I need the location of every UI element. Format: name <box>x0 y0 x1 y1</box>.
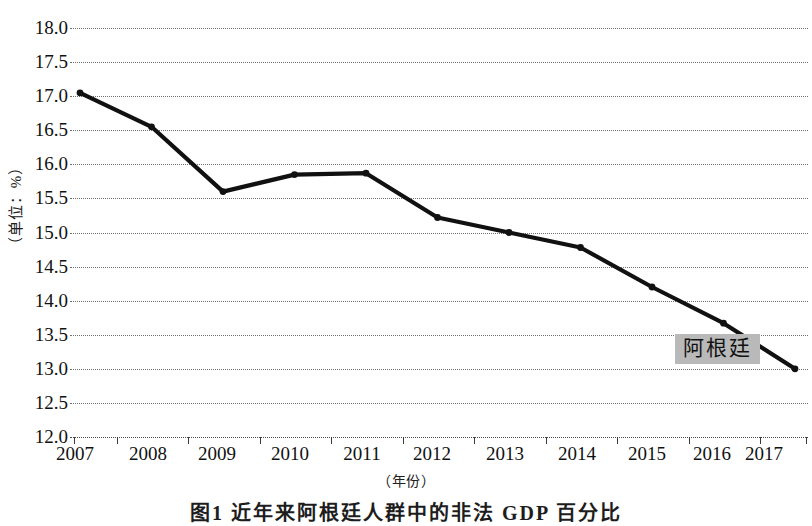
y-axis-tick-label: 13.5 <box>12 325 68 344</box>
y-axis-tick-labels: 18.017.517.016.516.015.515.014.514.013.5… <box>8 0 68 460</box>
y-axis-tick-label: 16.0 <box>12 154 68 173</box>
x-axis-tick-label: 2013 <box>481 444 529 463</box>
gridline <box>70 369 808 370</box>
gridline <box>70 62 808 63</box>
x-axis-tick-label: 2009 <box>193 444 241 463</box>
x-axis-tick <box>260 437 261 444</box>
gridline <box>70 233 808 234</box>
x-axis-unit-label: （年份） <box>0 470 812 490</box>
x-axis-tick-label: 2012 <box>408 444 456 463</box>
y-axis-tick-label: 14.0 <box>12 291 68 310</box>
x-axis-tick <box>806 437 807 444</box>
y-axis-tick-label: 17.5 <box>12 52 68 71</box>
x-axis-tick-label: 2011 <box>338 444 386 463</box>
x-axis-tick-label: 2017 <box>740 444 788 463</box>
y-axis-tick-label: 18.0 <box>12 18 68 37</box>
x-axis-tick-label: 2014 <box>553 444 601 463</box>
x-axis-tick <box>474 437 475 444</box>
y-axis-tick-label: 15.5 <box>12 188 68 207</box>
gridline <box>70 164 808 165</box>
plot-area <box>70 28 808 437</box>
x-axis-tick-label: 2007 <box>51 444 99 463</box>
y-axis-tick-label: 14.5 <box>12 257 68 276</box>
gridline <box>70 267 808 268</box>
gridline <box>70 198 808 199</box>
y-axis-tick-label: 17.0 <box>12 86 68 105</box>
y-axis-tick-label: 16.5 <box>12 120 68 139</box>
x-axis-tick <box>546 437 547 444</box>
gridline <box>70 437 808 438</box>
gridline <box>70 96 808 97</box>
x-axis-tick-label: 2008 <box>124 444 172 463</box>
x-axis-tick <box>188 437 189 444</box>
figure-caption: 图1 近年来阿根廷人群中的非法 GDP 百分比 <box>0 497 812 526</box>
x-axis-tick <box>689 437 690 444</box>
x-axis-tick <box>617 437 618 444</box>
x-axis-tick <box>331 437 332 444</box>
y-axis-tick-label: 15.0 <box>12 223 68 242</box>
x-axis-tick-label: 2010 <box>266 444 314 463</box>
gridline <box>70 301 808 302</box>
x-axis-tick <box>403 437 404 444</box>
x-axis-tick <box>117 437 118 444</box>
y-axis-tick-label: 12.5 <box>12 393 68 412</box>
series-label-argentina: 阿根廷 <box>675 334 760 364</box>
gridline <box>70 403 808 404</box>
gridline <box>70 28 808 29</box>
y-axis-tick-label: 13.0 <box>12 359 68 378</box>
gridline <box>70 130 808 131</box>
x-axis-tick-label: 2015 <box>623 444 671 463</box>
x-axis-tick-label: 2016 <box>688 444 736 463</box>
